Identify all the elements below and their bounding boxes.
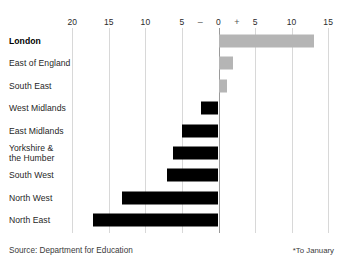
x-tick-label: 5 — [253, 17, 258, 27]
axis-sign-marker: – — [198, 17, 203, 27]
category-label: East of England — [9, 58, 70, 68]
category-label: North West — [9, 193, 52, 203]
x-tick-label: 10 — [141, 17, 151, 27]
category-label: London — [9, 36, 41, 46]
bar — [173, 147, 218, 160]
chart-row: South West — [0, 164, 342, 186]
chart-row: North East — [0, 209, 342, 231]
diverging-bar-chart: 2015105051015–+ LondonEast of EnglandSou… — [0, 0, 342, 265]
x-tick-label: 20 — [67, 17, 77, 27]
bar — [219, 57, 234, 70]
chart-row: West Midlands — [0, 97, 342, 119]
category-label: South East — [9, 81, 52, 91]
x-tick-label: 15 — [323, 17, 333, 27]
bar — [122, 191, 218, 204]
x-tick-label: 10 — [287, 17, 297, 27]
chart-footer: Source: Department for Education *To Jan… — [0, 246, 342, 260]
chart-row: East of England — [0, 52, 342, 74]
chart-row: Yorkshire & the Humber — [0, 142, 342, 164]
bar — [219, 35, 315, 48]
bar — [182, 124, 219, 137]
x-tick-label: 0 — [216, 17, 221, 27]
asterisk-note: *To January — [293, 246, 334, 255]
category-label: Yorkshire & the Humber — [9, 143, 54, 163]
chart-row: South East — [0, 75, 342, 97]
bar — [201, 102, 219, 115]
category-label: East Midlands — [9, 126, 64, 136]
axis-sign-marker: + — [234, 17, 239, 27]
plot-area: LondonEast of EnglandSouth EastWest Midl… — [0, 28, 342, 240]
category-label: South West — [9, 170, 54, 180]
category-label: West Midlands — [9, 103, 66, 113]
x-tick-label: 15 — [104, 17, 114, 27]
bar — [93, 214, 219, 227]
bar — [219, 79, 228, 92]
chart-row: North West — [0, 187, 342, 209]
chart-row: East Midlands — [0, 120, 342, 142]
x-tick-label: 5 — [180, 17, 185, 27]
category-label: North East — [9, 215, 50, 225]
chart-row: London — [0, 30, 342, 52]
source-note: Source: Department for Education — [9, 246, 133, 255]
clipped-header-strip — [0, 0, 342, 8]
bar — [167, 169, 219, 182]
